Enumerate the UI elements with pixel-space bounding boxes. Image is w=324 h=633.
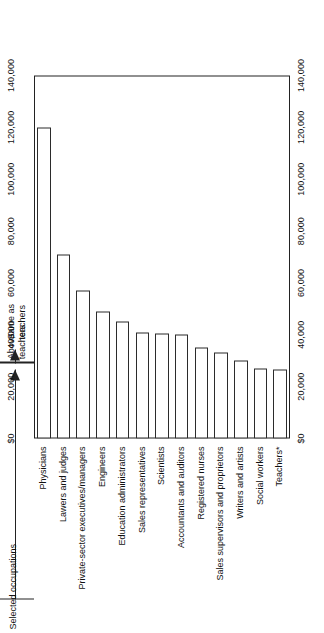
category-label: Physicians: [37, 446, 51, 489]
category-axis-labels: PhysiciansLawers and judgesPrivate-secto…: [34, 440, 290, 633]
bar: [195, 347, 209, 438]
value-tick-label: 100,000: [296, 162, 306, 195]
category-label: Lawers and judges: [57, 446, 71, 522]
category-label: Writers and artists: [234, 446, 248, 518]
bar: [57, 254, 71, 438]
category-label: Sales representatives: [136, 446, 150, 533]
value-tick-label: 100,000: [6, 162, 16, 195]
bar: [273, 369, 287, 438]
chart-root: Above teachers Same as teachers $020,000…: [0, 0, 324, 633]
bar-series: [34, 75, 290, 438]
bar: [155, 333, 169, 438]
value-tick-label: 40,000: [296, 320, 306, 348]
category-label: Registered nurses: [195, 446, 209, 519]
category-label: Social workers: [254, 446, 268, 505]
bar: [214, 352, 228, 438]
category-label: Teachers*: [273, 446, 287, 486]
plot-area: Above teachers Same as teachers $020,000…: [0, 0, 324, 633]
bar: [116, 321, 130, 438]
category-axis-title: Selected occupations: [8, 543, 18, 629]
value-tick-label: 120,000: [6, 110, 16, 143]
category-label: Sales supervisors and proprietors: [214, 446, 228, 580]
value-tick-label: 40,000: [6, 320, 16, 348]
bar: [254, 368, 268, 438]
value-tick-label: 80,000: [6, 217, 16, 245]
bar: [96, 311, 110, 438]
bar: [76, 290, 90, 438]
value-axis-ticks-secondary: $020,00040,00060,00080,000100,000120,000…: [296, 75, 312, 438]
value-tick-label: 60,000: [6, 268, 16, 296]
bar: [37, 127, 51, 438]
category-label: Engineers: [96, 446, 110, 487]
value-tick-label: 20,000: [296, 372, 306, 400]
value-tick-label: 80,000: [296, 217, 306, 245]
category-label: Accountants and auditors: [175, 446, 189, 548]
value-tick-label: 140,000: [6, 58, 16, 91]
bar: [175, 334, 189, 438]
value-axis-ticks-primary: $020,00040,00060,00080,000100,000120,000…: [6, 75, 22, 438]
value-tick-label: 120,000: [296, 110, 306, 143]
bar: [234, 360, 248, 438]
value-tick-label: 20,000: [6, 372, 16, 400]
value-tick-label: 140,000: [296, 58, 306, 91]
category-label: Private-sector executives/managers: [76, 446, 90, 589]
value-tick-label: $0: [6, 433, 16, 443]
bar: [136, 332, 150, 438]
rotated-chart-canvas: Above teachers Same as teachers $020,000…: [0, 0, 324, 633]
category-label: Scientists: [155, 446, 169, 485]
value-tick-label: $0: [296, 433, 306, 443]
category-label: Education administrators: [116, 446, 130, 545]
value-tick-label: 60,000: [296, 268, 306, 296]
